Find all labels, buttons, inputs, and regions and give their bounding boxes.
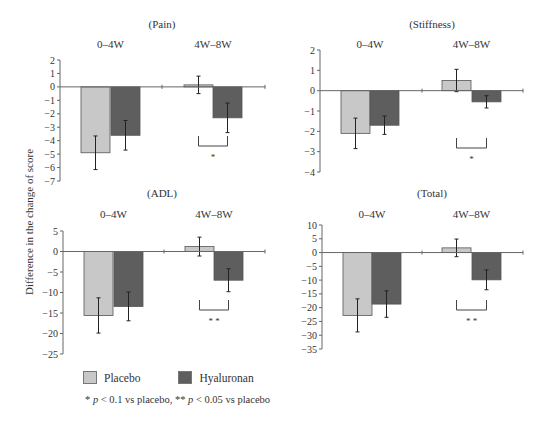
y-tick-label: 1	[310, 65, 315, 76]
y-tick-label: −3	[304, 146, 315, 157]
footnote-text1: < 0.1 vs placebo,	[98, 394, 175, 405]
chart-panel-adl: (ADL)0–4W4W–8W50−5−10−15−20−25* *	[42, 187, 265, 360]
y-tick-label: −25	[42, 349, 58, 360]
category-label: 0–4W	[357, 38, 385, 50]
y-tick-label: 2	[50, 55, 55, 66]
y-tick-label: 1	[50, 68, 55, 79]
hyaluronan-swatch	[178, 371, 192, 384]
y-tick-label: −1	[304, 106, 315, 117]
legend: Placebo Hyaluronan	[83, 371, 278, 384]
y-tick-label: 10	[307, 220, 317, 231]
y-tick-label: −4	[304, 167, 315, 178]
legend-item-placebo: Placebo	[83, 371, 140, 384]
chart-title: (Pain)	[149, 18, 176, 31]
legend-label-hyaluronan: Hyaluronan	[199, 372, 253, 384]
footnote: * p < 0.1 vs placebo, ** p < 0.05 vs pla…	[85, 394, 270, 405]
chart-panel-total: (Total)0–4W4W–8W1050−5−10−15−20−25−30−35…	[301, 187, 523, 355]
category-label: 0–4W	[100, 208, 128, 220]
significance-marker: *	[211, 152, 216, 162]
significance-marker: * *	[208, 316, 220, 326]
chart-title: (ADL)	[147, 187, 177, 200]
chart-title: (Total)	[417, 187, 447, 200]
legend-label-placebo: Placebo	[104, 372, 140, 384]
chart-panel-pain: (Pain)0–4W4W–8W210−1−2−3−4−5−6−7*	[44, 18, 265, 187]
y-tick-label: −15	[42, 308, 58, 319]
y-tick-label: −10	[301, 275, 317, 286]
y-axis-label: Difference in the change of score	[23, 149, 35, 295]
placebo-swatch	[83, 371, 97, 384]
footnote-star2: **	[175, 394, 186, 405]
y-tick-label: 5	[53, 226, 58, 237]
category-label: 0–4W	[359, 208, 387, 220]
category-label: 4W–8W	[194, 38, 232, 50]
chart-title: (Stiffness)	[409, 18, 455, 31]
significance-marker: * *	[466, 316, 478, 326]
footnote-star: *	[85, 394, 90, 405]
y-tick-label: −2	[44, 108, 55, 119]
y-tick-label: 0	[310, 85, 315, 96]
y-tick-label: 0	[53, 246, 58, 257]
charts-canvas: (Pain)0–4W4W–8W210−1−2−3−4−5−6−7*(Stiffn…	[0, 0, 547, 425]
y-tick-label: −5	[44, 149, 55, 160]
significance-marker: *	[469, 154, 474, 164]
category-label: 4W–8W	[453, 208, 491, 220]
significance-bracket	[457, 300, 487, 310]
y-tick-label: −7	[44, 176, 55, 187]
y-tick-label: −15	[301, 288, 317, 299]
y-tick-label: −25	[301, 316, 317, 327]
y-tick-label: −6	[44, 162, 55, 173]
category-label: 4W–8W	[195, 208, 233, 220]
footnote-text2: < 0.05 vs placebo	[193, 394, 270, 405]
y-tick-label: −35	[301, 344, 317, 355]
y-tick-label: −10	[42, 287, 58, 298]
y-tick-label: −30	[301, 330, 317, 341]
y-tick-label: −4	[44, 135, 55, 146]
y-tick-label: 0	[50, 81, 55, 92]
y-tick-label: −20	[42, 328, 58, 339]
category-label: 0–4W	[97, 38, 125, 50]
significance-bracket	[200, 300, 229, 310]
y-tick-label: −2	[304, 126, 315, 137]
y-tick-label: 5	[312, 233, 317, 244]
y-tick-label: −1	[44, 95, 55, 106]
y-tick-label: −3	[44, 122, 55, 133]
y-tick-label: −5	[47, 267, 58, 278]
y-tick-label: −5	[306, 261, 317, 272]
y-tick-label: 2	[310, 45, 315, 56]
legend-item-hyaluronan: Hyaluronan	[178, 371, 253, 384]
y-tick-label: 0	[312, 247, 317, 258]
significance-bracket	[199, 136, 228, 146]
category-label: 4W–8W	[453, 38, 491, 50]
y-tick-label: −20	[301, 302, 317, 313]
significance-bracket	[457, 138, 487, 148]
chart-panel-stiffness: (Stiffness)0–4W4W–8W210−1−2−3−4*	[304, 18, 523, 178]
